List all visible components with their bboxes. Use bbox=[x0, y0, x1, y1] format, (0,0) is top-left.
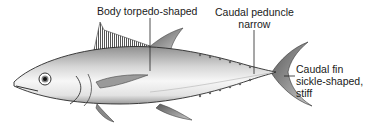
caudal-peduncle-label: Caudal peduncle narrow bbox=[215, 6, 294, 30]
body-label: Body torpedo-shaped bbox=[97, 5, 197, 17]
caudal-fin-label-line1: Caudal fin bbox=[296, 63, 363, 75]
pelvic-fin bbox=[96, 104, 114, 122]
caudal-peduncle-label-line2: narrow bbox=[215, 18, 294, 30]
caudal-fin-label-line2: sickle-shaped, bbox=[296, 75, 363, 87]
caudal-fin-label: Caudal fin sickle-shaped, stiff bbox=[296, 63, 363, 99]
first-dorsal-fin bbox=[94, 22, 150, 50]
tuna-diagram: Body torpedo-shaped Caudal peduncle narr… bbox=[0, 0, 375, 136]
anal-fin bbox=[156, 104, 192, 120]
caudal-peduncle-label-line1: Caudal peduncle bbox=[215, 6, 294, 18]
eye-icon bbox=[39, 73, 51, 85]
caudal-fin-label-line3: stiff bbox=[296, 87, 363, 99]
